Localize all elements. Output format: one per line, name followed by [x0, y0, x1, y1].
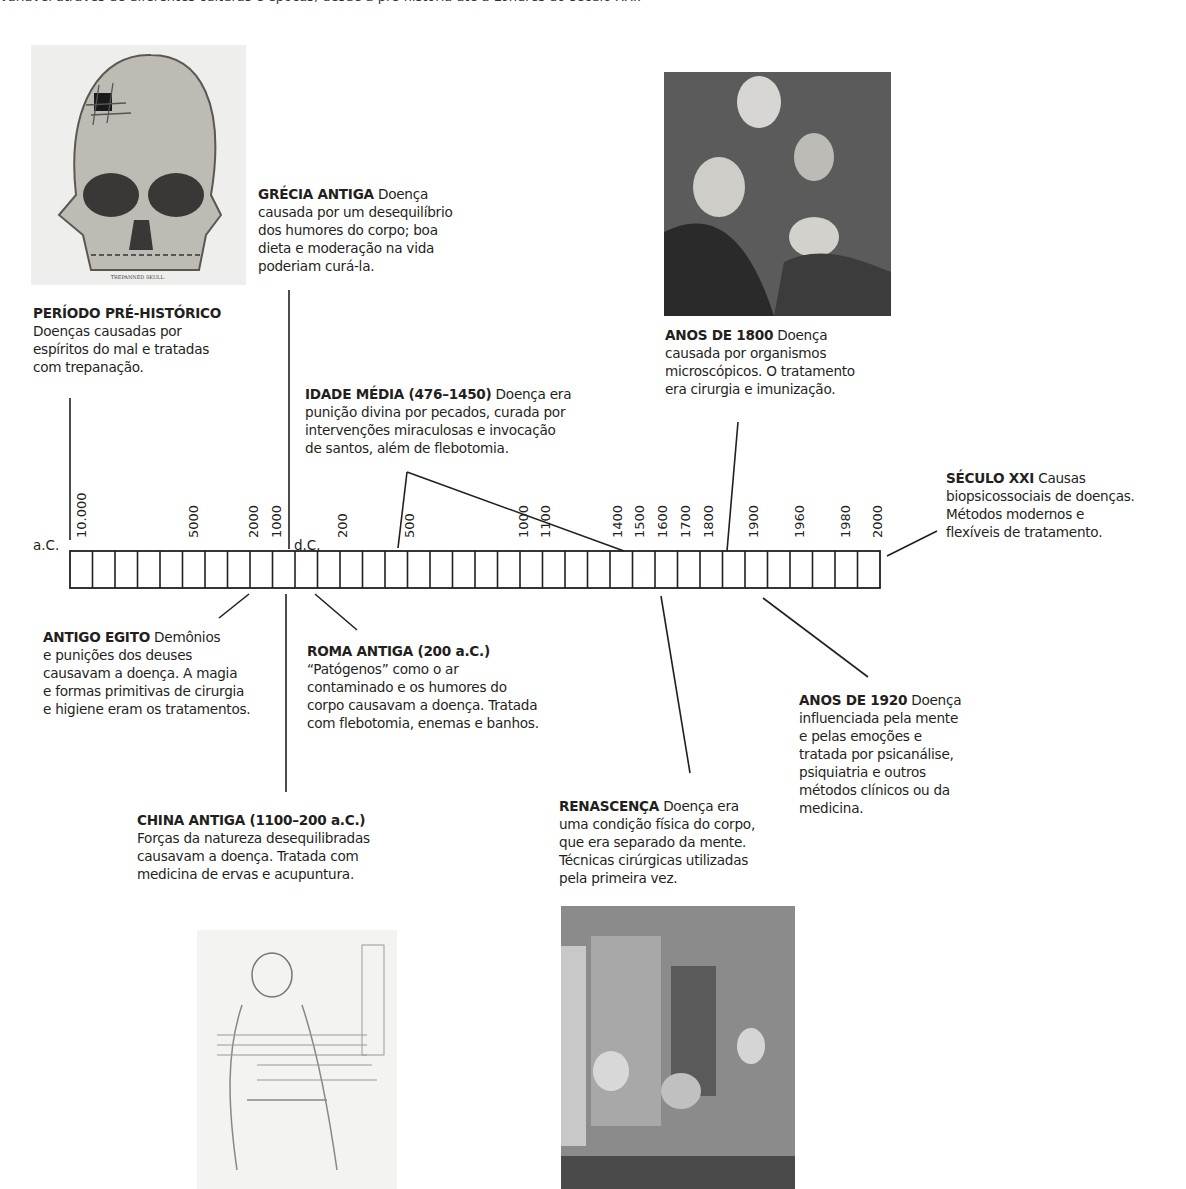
entry-title: ANTIGO EGITO [43, 629, 150, 645]
tick-1600: 1600 [655, 505, 670, 538]
chinese-acupuncture-chart-image [197, 930, 397, 1189]
tick-1000: 1000 [516, 505, 531, 538]
tick-1000-bc: 1000 [269, 505, 284, 538]
renaissance-surgery-engraving-image [561, 906, 795, 1189]
entry-middle-ages: IDADE MÉDIA (476–1450) Doença era puniçã… [305, 385, 571, 457]
tick-1100: 1100 [538, 505, 553, 538]
tick-1960: 1960 [792, 505, 807, 538]
entry-greece: GRÉCIA ANTIGA Doença causada por um dese… [258, 185, 452, 275]
entry-title: ROMA ANTIGA (200 a.C.) [307, 643, 490, 659]
entry-title: CHINA ANTIGA (1100–200 a.C.) [137, 812, 365, 828]
tick-1980: 1980 [838, 505, 853, 538]
entry-title: IDADE MÉDIA (476–1450) [305, 386, 492, 402]
entry-title: ANOS DE 1800 [665, 327, 773, 343]
entry-title: ANOS DE 1920 [799, 692, 907, 708]
entry-egypt: ANTIGO EGITO Demônios e punições dos deu… [43, 628, 250, 718]
entry-title: PERÍODO PRÉ-HISTÓRICO [33, 305, 221, 321]
svg-text:TREPANNED SKULL.: TREPANNED SKULL. [111, 274, 166, 280]
entry-21st-century: SÉCULO XXI Causas biopsicossociais de do… [946, 469, 1135, 541]
entry-title: SÉCULO XXI [946, 470, 1034, 486]
entry-title: RENASCENÇA [559, 798, 659, 814]
entry-1800s: ANOS DE 1800 Doença causada por organism… [665, 326, 855, 398]
tick-1800: 1800 [701, 505, 716, 538]
tick-10000: 10.000 [74, 493, 89, 539]
entry-china: CHINA ANTIGA (1100–200 a.C.) Forças da n… [137, 811, 370, 883]
era-bc-label: a.C. [33, 537, 59, 553]
1800s-engraving-image [664, 72, 891, 316]
trepanned-skull-image: TREPANNED SKULL. [31, 45, 246, 285]
tick-200: 200 [335, 513, 350, 538]
tick-2000: 2000 [870, 505, 885, 538]
tick-500: 500 [402, 513, 417, 538]
tick-1700: 1700 [678, 505, 693, 538]
tick-5000: 5000 [186, 505, 201, 538]
entry-prehistoric: PERÍODO PRÉ-HISTÓRICO Doenças causadas p… [33, 304, 221, 376]
entry-renaissance: RENASCENÇA Doença era uma condição físic… [559, 797, 755, 887]
tick-2000: 2000 [246, 505, 261, 538]
entry-title: GRÉCIA ANTIGA [258, 186, 374, 202]
tick-1400: 1400 [610, 505, 625, 538]
tick-1500: 1500 [632, 505, 647, 538]
entry-1920s: ANOS DE 1920 Doença influenciada pela me… [799, 691, 961, 817]
entry-rome: ROMA ANTIGA (200 a.C.) “Patógenos” como … [307, 642, 539, 732]
tick-1900: 1900 [746, 505, 761, 538]
era-ad-label: d.C. [294, 537, 321, 553]
